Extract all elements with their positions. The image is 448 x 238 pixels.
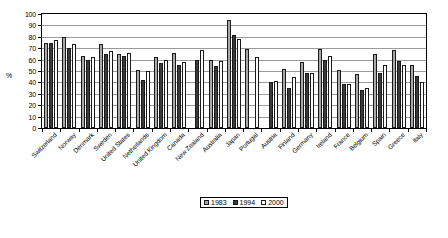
y-tick-label: 90 — [29, 22, 36, 29]
x-tick-mark — [280, 129, 281, 132]
bar — [282, 69, 286, 128]
bar — [342, 84, 346, 128]
y-tick-label: 80 — [29, 33, 36, 40]
bar — [355, 74, 359, 128]
x-tick-mark — [298, 129, 299, 132]
legend-label: 1983 — [211, 199, 227, 206]
x-tick-label: Ireland — [314, 131, 333, 150]
bar — [177, 65, 181, 128]
legend-label: 2000 — [268, 199, 284, 206]
x-tick-mark — [60, 129, 61, 132]
legend-swatch — [261, 200, 266, 205]
bars-layer — [42, 14, 426, 128]
bar — [146, 71, 150, 128]
x-tick-mark — [207, 129, 208, 132]
x-tick-label: Spain — [371, 131, 387, 147]
x-tick-mark — [79, 129, 80, 132]
chart-container: % 0102030405060708090100 SwitzerlandNorw… — [0, 0, 448, 238]
bar — [81, 56, 85, 128]
bar-group — [60, 14, 78, 128]
bar — [397, 61, 401, 128]
bar — [195, 60, 199, 128]
bar-group — [261, 14, 279, 128]
bar — [86, 60, 90, 128]
y-axis: 0102030405060708090100 — [0, 13, 41, 129]
bar-group — [243, 14, 261, 128]
y-tick-label: 10 — [29, 113, 36, 120]
x-tick-label: Greece — [386, 131, 406, 151]
bar — [117, 54, 121, 128]
x-tick-mark — [188, 129, 189, 132]
bar-group — [389, 14, 407, 128]
bar — [99, 44, 103, 128]
bar-group — [207, 14, 225, 128]
bar-group — [353, 14, 371, 128]
bar-group — [115, 14, 133, 128]
bar — [136, 70, 140, 128]
bar — [91, 57, 95, 128]
bar — [310, 73, 314, 128]
bar — [373, 54, 377, 128]
bar — [44, 43, 48, 128]
bar-group — [371, 14, 389, 128]
y-tick-label: 50 — [29, 68, 36, 75]
bar — [378, 73, 382, 128]
bar-group — [133, 14, 151, 128]
bar — [360, 90, 364, 128]
y-tick-label: 0 — [32, 125, 36, 132]
x-tick-mark — [426, 129, 427, 132]
bar — [227, 20, 231, 128]
bar — [269, 82, 273, 128]
x-tick-mark — [133, 129, 134, 132]
x-tick-mark — [97, 129, 98, 132]
x-tick-mark — [170, 129, 171, 132]
bar — [274, 81, 278, 128]
bar — [328, 56, 332, 128]
bar-group — [280, 14, 298, 128]
bar-group — [335, 14, 353, 128]
bar — [323, 60, 327, 128]
y-tick-label: 20 — [29, 102, 36, 109]
bar-group — [79, 14, 97, 128]
legend-item: 1994 — [233, 199, 256, 206]
bar — [237, 39, 241, 128]
bar — [337, 70, 341, 128]
x-tick-mark — [353, 129, 354, 132]
bar-group — [170, 14, 188, 128]
y-tick-label: 60 — [29, 56, 36, 63]
bar — [402, 65, 406, 128]
bar-group — [42, 14, 60, 128]
bar — [62, 37, 66, 128]
y-tick-label: 70 — [29, 45, 36, 52]
bar-group — [298, 14, 316, 128]
bar — [292, 77, 296, 128]
x-tick-mark — [316, 129, 317, 132]
bar — [415, 76, 419, 128]
legend-swatch — [233, 200, 238, 205]
x-tick-label: Belgium — [348, 131, 369, 152]
legend-swatch — [204, 200, 209, 205]
x-tick-mark — [408, 129, 409, 132]
bar — [318, 49, 322, 128]
bar-group — [188, 14, 206, 128]
x-tick-label: Austria — [259, 131, 278, 150]
bar — [54, 40, 58, 128]
x-tick-mark — [243, 129, 244, 132]
bar — [245, 49, 249, 128]
bar — [67, 48, 71, 128]
x-tick-label: Portugal — [238, 131, 260, 153]
bar — [219, 61, 223, 128]
y-tick-label: 40 — [29, 79, 36, 86]
x-tick-label: United Kingdom — [131, 131, 168, 168]
y-tick-label: 100 — [25, 11, 36, 18]
bar — [365, 88, 369, 128]
bar — [141, 80, 145, 128]
bar — [305, 73, 309, 128]
bar — [287, 88, 291, 128]
x-axis-labels: SwitzerlandNorwayDenmarkSwedenUnited Sta… — [42, 131, 426, 193]
bar — [300, 62, 304, 128]
x-tick-mark — [42, 129, 43, 132]
bar-group — [97, 14, 115, 128]
bar — [347, 84, 351, 128]
bar-group — [225, 14, 243, 128]
